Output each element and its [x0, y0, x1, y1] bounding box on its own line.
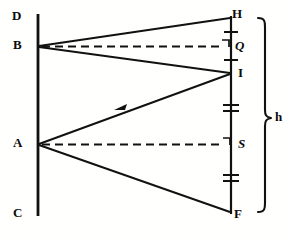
right-angle-at-Q-icon — [222, 40, 229, 47]
ray-A-to-I — [39, 74, 230, 144]
ray-diagram-figure: D B A C H Q I S F h — [0, 0, 290, 242]
right-angle-at-S-icon — [223, 138, 230, 145]
ray-A-to-F — [39, 145, 230, 212]
ray-B-to-H — [39, 18, 230, 46]
diagram-canvas — [0, 0, 290, 242]
point-label-I: I — [238, 66, 243, 79]
height-brace-h-icon — [258, 18, 271, 212]
point-label-B: B — [13, 38, 22, 51]
point-label-A: A — [13, 136, 23, 149]
ray-direction-arrowhead-icon — [114, 104, 127, 110]
point-label-C: C — [13, 206, 23, 219]
ray-B-to-I — [39, 47, 230, 73]
point-label-S: S — [238, 137, 245, 150]
point-label-F: F — [234, 207, 242, 220]
point-label-Q: Q — [235, 39, 245, 52]
point-label-H: H — [232, 7, 242, 20]
height-label-h: h — [275, 110, 282, 123]
point-label-D: D — [12, 9, 22, 22]
